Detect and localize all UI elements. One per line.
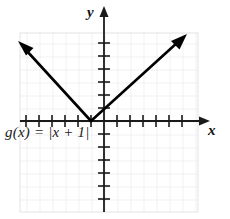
function-equation-label: g(x) = |x + 1| — [5, 124, 90, 141]
graph-screenshot: g(x) = |x + 1| y x — [0, 0, 230, 219]
y-axis-label: y — [87, 4, 94, 21]
coordinate-plane — [0, 0, 230, 219]
grid-lines — [20, 33, 198, 212]
x-axis-label: x — [208, 122, 216, 139]
